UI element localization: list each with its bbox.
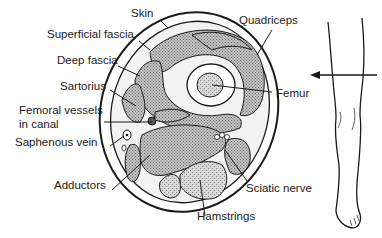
label-sartorius: Sartorius xyxy=(60,80,106,92)
label-sciatic-nerve: Sciatic nerve xyxy=(246,182,312,194)
label-superficial-fascia: Superficial fascia xyxy=(47,28,134,40)
label-saphenous-vein: Saphenous vein xyxy=(15,136,97,148)
label-femur: Femur xyxy=(276,87,309,99)
leg-inset-figure xyxy=(328,18,364,228)
label-quadriceps: Quadriceps xyxy=(239,14,298,26)
label-deep-fascia: Deep fascia xyxy=(57,54,118,66)
thigh-cross-section-diagram: Skin Superficial fascia Deep fascia Quad… xyxy=(0,0,382,238)
label-skin: Skin xyxy=(131,7,153,19)
label-femoral-vessels-line2: in canal xyxy=(19,118,59,130)
section-level-arrow xyxy=(310,71,377,79)
femur-bone xyxy=(187,64,235,106)
label-adductors: Adductors xyxy=(54,179,106,191)
label-hamstrings: Hamstrings xyxy=(197,210,255,222)
label-femoral-vessels-line1: Femoral vessels xyxy=(19,104,103,116)
